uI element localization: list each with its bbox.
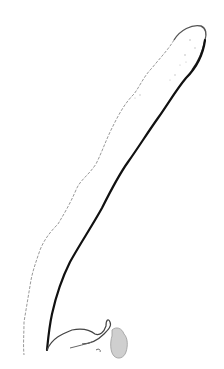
sketch-canvas [0, 0, 224, 369]
specimen-head-outline [174, 26, 206, 70]
specimen-blob [111, 328, 128, 358]
specimen-left-edge [24, 40, 174, 355]
specimen-texture [134, 39, 195, 98]
specimen-right-edge [47, 40, 205, 350]
specimen-drawing [0, 0, 224, 369]
